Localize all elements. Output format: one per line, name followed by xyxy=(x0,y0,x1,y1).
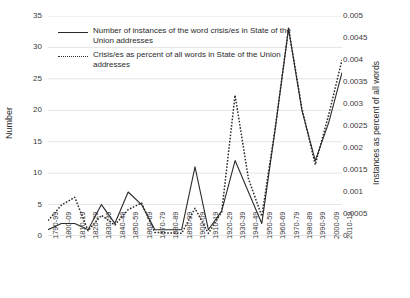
x-tick: 1840-49 xyxy=(118,211,127,239)
y-tick-left: 10 xyxy=(20,169,42,177)
x-tick: 1950-59 xyxy=(265,211,274,239)
y-tick-right: 0.005 xyxy=(343,12,383,20)
x-tick: 1820-29 xyxy=(91,211,100,239)
x-tick: 2000-09 xyxy=(332,211,341,239)
x-tick: 1870-79 xyxy=(158,211,167,239)
y-tick-right: 0.0015 xyxy=(343,166,383,174)
chart-legend: Number of instances of the word crisis/e… xyxy=(58,26,293,74)
legend-item-number: Number of instances of the word crisis/e… xyxy=(58,26,293,46)
y-tick-left: 20 xyxy=(20,106,42,114)
y-tick-left: 15 xyxy=(20,138,42,146)
x-tick: 2010-19 xyxy=(345,211,354,239)
x-tick: 1990-99 xyxy=(318,211,327,239)
y-axis-left-ticks: 05101520253035 xyxy=(18,0,42,298)
x-tick: 1930-39 xyxy=(238,211,247,239)
x-tick: 1800-09 xyxy=(64,211,73,239)
legend-label-percent: Crisis/es as percent of all words in Sta… xyxy=(93,50,293,70)
dotted-line-icon xyxy=(58,51,88,62)
y-tick-left: 25 xyxy=(20,75,42,83)
y-tick-right: 0.0025 xyxy=(343,122,383,130)
x-tick: 1810-19 xyxy=(78,211,87,239)
x-tick: 1960-69 xyxy=(278,211,287,239)
y-tick-right: 0.0035 xyxy=(343,78,383,86)
x-tick: 1790-99 xyxy=(51,211,60,239)
x-tick: 1920-29 xyxy=(225,211,234,239)
y-tick-left: 30 xyxy=(20,43,42,51)
solid-line-icon xyxy=(58,27,88,38)
y-tick-left: 35 xyxy=(20,12,42,20)
x-tick: 1850-59 xyxy=(131,211,140,239)
y-axis-left-title: Number xyxy=(4,88,14,158)
x-tick: 1890-99 xyxy=(185,211,194,239)
x-tick: 1880-89 xyxy=(171,211,180,239)
x-tick: 1970-79 xyxy=(292,211,301,239)
legend-label-number: Number of instances of the word crisis/e… xyxy=(93,26,293,46)
x-tick: 1860-69 xyxy=(145,211,154,239)
y-tick-right: 0.002 xyxy=(343,144,383,152)
x-tick: 1830-39 xyxy=(104,211,113,239)
x-tick: 1900-09 xyxy=(198,211,207,239)
y-tick-right: 0.004 xyxy=(343,56,383,64)
x-tick: 1980-89 xyxy=(305,211,314,239)
y-tick-right: 0.0045 xyxy=(343,34,383,42)
y-tick-right: 0.001 xyxy=(343,188,383,196)
x-tick: 1940-49 xyxy=(251,211,260,239)
crisis-word-frequency-chart: Number Instances as percent of all words… xyxy=(0,0,410,298)
y-tick-left: 0 xyxy=(20,232,42,240)
x-axis-ticks: 1790-991800-091810-191820-291830-391840-… xyxy=(48,239,342,297)
y-axis-right-ticks: 00.00050.0010.00150.0020.00250.0030.0035… xyxy=(343,0,389,298)
y-tick-left: 5 xyxy=(20,201,42,209)
legend-item-percent: Crisis/es as percent of all words in Sta… xyxy=(58,50,293,70)
y-tick-right: 0.003 xyxy=(343,100,383,108)
x-tick: 1910-19 xyxy=(211,211,220,239)
